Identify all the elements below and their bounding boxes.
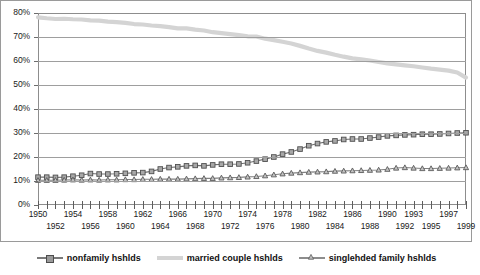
x-axis-tick-label: 1964 [146,222,174,231]
y-axis-tick-label: 10% [0,176,30,185]
x-axis-tick [239,201,240,209]
legend-item-married-couple[interactable]: married couple hshlds [157,253,283,263]
x-axis-tick-label: 1968 [181,222,209,231]
x-axis-tick-label: 1997 [435,210,463,219]
x-axis-tick-label: 1952 [41,222,69,231]
gridline [38,37,466,38]
x-axis-tick [186,201,187,209]
x-axis-tick [457,201,458,209]
x-axis-tick-label: 1978 [269,210,297,219]
x-axis-tick [169,201,170,209]
x-axis-tick [90,201,91,209]
y-axis-tick-label: 40% [0,104,30,113]
gridline [38,181,466,182]
x-axis-tick [370,201,371,209]
y-axis-tick [34,157,38,158]
x-axis-tick [47,201,48,209]
x-axis-tick-label: 1954 [59,210,87,219]
gridline [38,133,466,134]
x-axis-tick [466,201,467,209]
x-axis-tick [440,201,441,209]
x-axis-tick [352,201,353,209]
x-axis-tick-label: 1986 [338,210,366,219]
x-axis-tick [414,201,415,209]
legend-item-nonfamily[interactable]: nonfamily hshlds [37,253,141,263]
gridline [38,109,466,110]
y-axis-tick-label: 30% [0,128,30,137]
y-axis-tick [34,61,38,62]
legend-swatch-line-icon [157,253,183,263]
x-axis-tick [221,201,222,209]
y-axis-tick [34,109,38,110]
x-axis-tick-label: 1958 [94,210,122,219]
legend-label-nonfamily: nonfamily hshlds [67,253,141,263]
x-axis-tick [38,201,39,209]
x-axis-tick [274,201,275,209]
x-axis-tick [291,201,292,209]
y-axis-tick [34,181,38,182]
y-axis-tick-label: 80% [0,8,30,17]
x-axis-tick [55,201,56,209]
x-axis-tick-label: 1993 [400,210,428,219]
x-axis-tick [256,201,257,209]
x-axis-tick [396,201,397,209]
x-axis-tick-label: 1972 [216,222,244,231]
x-axis-tick [326,201,327,209]
x-axis-tick [143,201,144,209]
legend-label-singleheaded-family: singlehded family hshlds [329,253,437,263]
x-axis-tick-label: 1950 [24,210,52,219]
x-axis-tick [449,201,450,209]
x-axis-tick [82,201,83,209]
chart-legend: nonfamily hshlds married couple hshlds s… [0,248,473,268]
y-axis-tick [34,37,38,38]
x-axis-tick [213,201,214,209]
x-axis-tick-label: 1999 [452,222,480,231]
legend-swatch-square-icon [37,253,63,263]
x-axis-tick [73,201,74,209]
y-axis-tick-label: 50% [0,80,30,89]
y-axis-tick [34,13,38,14]
x-axis-tick [230,201,231,209]
x-axis-tick-label: 1995 [417,222,445,231]
x-axis-tick-label: 1992 [391,222,419,231]
x-axis-tick-label: 1956 [76,222,104,231]
y-axis-tick-label: 60% [0,56,30,65]
x-axis-tick-label: 1974 [234,210,262,219]
y-axis-tick-label: 0% [0,200,30,209]
x-axis-tick [283,201,284,209]
gridline [38,61,466,62]
x-axis-tick-label: 1990 [373,210,401,219]
x-axis-tick [431,201,432,209]
legend-item-singleheaded-family[interactable]: singlehded family hshlds [299,253,437,263]
x-axis-tick [335,201,336,209]
y-axis-tick-label: 70% [0,32,30,41]
x-axis-tick [379,201,380,209]
y-axis-tick [34,133,38,134]
x-axis-tick [108,201,109,209]
x-axis-tick-label: 1982 [304,210,332,219]
x-axis-tick [125,201,126,209]
x-axis-tick [195,201,196,209]
y-axis-labels: 0%10%20%30%40%50%60%70%80% [0,0,34,242]
x-axis-tick-label: 1962 [129,210,157,219]
legend-label-married-couple: married couple hshlds [187,253,283,263]
x-axis-tick [152,201,153,209]
x-axis-tick-label: 1970 [199,210,227,219]
x-axis-tick [309,201,310,209]
x-axis-tick [265,201,266,209]
x-axis-tick-label: 1976 [251,222,279,231]
x-axis-tick-label: 1960 [111,222,139,231]
x-axis-tick [99,201,100,209]
x-axis-tick [178,201,179,209]
x-axis-tick-label: 1980 [286,222,314,231]
x-axis-tick [64,201,65,209]
x-axis-tick [300,201,301,209]
gridline [38,85,466,86]
x-axis-tick [160,201,161,209]
x-axis-tick [248,201,249,209]
legend-swatch-triangle-icon [299,253,325,263]
x-axis-tick [387,201,388,209]
x-axis-tick [405,201,406,209]
x-axis-tick-label: 1988 [356,222,384,231]
